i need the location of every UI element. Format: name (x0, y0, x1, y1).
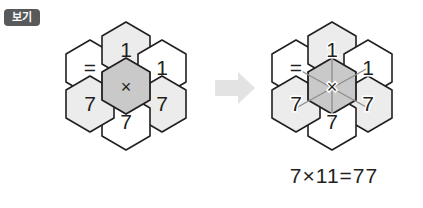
left-hex-cluster: 1 1 7 7 7 = × (66, 22, 186, 150)
result-equation: 7×11=77 (264, 164, 404, 188)
right-hex-bottom-label: 7 (326, 110, 338, 133)
right-hex-bottom-right-label: 7 (362, 92, 374, 115)
transform-arrow (215, 72, 255, 104)
left-hex-bottom-right-label: 7 (156, 92, 168, 115)
left-hex-bottom-left-label: 7 (84, 92, 96, 115)
left-hex-bottom-label: 7 (120, 110, 132, 133)
left-hex-top-left-label: = (84, 56, 96, 79)
right-hex-top-right-label: 1 (362, 56, 374, 79)
right-hex-cluster: 1 1 7 7 7 = × (272, 22, 392, 150)
left-hex-top-right-label: 1 (156, 56, 168, 79)
arrow-right-icon (215, 72, 255, 104)
right-hex-bottom-left-label: 7 (290, 92, 302, 115)
left-hex-top-label: 1 (120, 38, 132, 61)
left-hex-center-label: × (121, 77, 132, 97)
right-hex-top-left-label: = (290, 56, 302, 79)
right-hex-center-label: × (327, 77, 338, 97)
right-hex-top-label: 1 (326, 38, 338, 61)
